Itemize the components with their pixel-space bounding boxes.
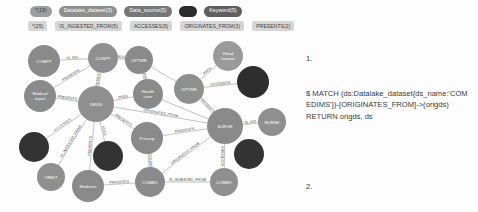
graph-edge[interactable] [151, 67, 176, 81]
graph-node[interactable]: Headtrauma [213, 41, 243, 71]
graph-canvas[interactable]: IS_ING...PRESENTSPRESENIS_INGESPRESACCES… [0, 34, 300, 212]
graph-node[interactable]: NURSE [258, 108, 286, 136]
graph-edge-label: ACCESSES [210, 81, 231, 87]
graph-node[interactable]: COMPT [28, 45, 60, 77]
graph-node[interactable]: SURGE [207, 108, 243, 144]
graph-node[interactable]: OPTWR [174, 74, 204, 104]
graph-edge-label: PRESENTS [57, 95, 78, 102]
graph-edge-label: IS_ING [244, 120, 257, 125]
graph-edge-label: PRESENTS [175, 127, 196, 134]
legend-relationship-pill[interactable]: IS_INGESTED_FROM(5) [55, 21, 122, 31]
legend-relationship-pill[interactable]: PRESENTS(2) [252, 21, 294, 31]
legend-relationship-pill[interactable]: ORIGINATES_FROM(3) [180, 21, 244, 31]
graph-node[interactable] [237, 66, 269, 98]
graph-node[interactable]: COMED [135, 167, 165, 197]
graph-edge-label: PRESENTS [114, 113, 133, 128]
graph-node-label: care [144, 94, 153, 99]
graph-node-label: report [34, 96, 46, 101]
graph-node-label: Medicine [79, 184, 97, 189]
legend-node-pill[interactable]: *(19) [30, 6, 52, 17]
legend-node-pill[interactable]: Keyword(5) [204, 6, 242, 17]
graph-explorer-screen: *(19)Datalake_dataset(3)Data_source(5)*(… [0, 0, 478, 212]
graph-edge-label: PRES [202, 66, 213, 76]
graph-edge-label: PRESENTS [61, 68, 80, 82]
graph-edge-label: IS_INGESTED_FROM [169, 178, 206, 182]
graph-node-label: COMED [216, 180, 232, 185]
graph-node[interactable]: Medicalreport [24, 80, 56, 112]
graph-edge-label: IS_ING... [66, 55, 81, 60]
graph-node[interactable] [93, 141, 123, 171]
graph-node-label: DRUG [90, 102, 103, 107]
graph-node-label: NURSE [265, 120, 280, 125]
graph-node[interactable] [19, 132, 49, 162]
query-text: $ MATCH (ds:Datalake_dataset{ds_name:'CO… [306, 88, 474, 123]
legend-node-types: *(19)Datalake_dataset(3)Data_source(5)*(… [0, 4, 300, 18]
graph-node-label: SURGE [217, 124, 232, 129]
query-index: 2. [306, 181, 474, 193]
graph-node-label: COMED [142, 180, 158, 185]
graph-node[interactable]: ORBIT [37, 163, 65, 191]
graph-node[interactable]: Medicine [72, 170, 104, 202]
graph-visualization[interactable]: IS_ING...PRESENTSPRESENIS_INGESPRESACCES… [0, 34, 300, 212]
query-block[interactable]: 1. $ MATCH (ds:Datalake_dataset{ds_name:… [306, 30, 474, 145]
graph-node-label: trauma [221, 56, 235, 61]
graph-node-label: CLINPT [95, 56, 111, 61]
graph-node[interactable]: COMED [210, 168, 238, 196]
graph-node-circle[interactable] [234, 139, 264, 169]
legend-relationship-pill[interactable]: *(25) [28, 21, 47, 31]
query-panel: 1. $ MATCH (ds:Datalake_dataset{ds_name:… [306, 30, 474, 208]
graph-node-circle[interactable] [93, 141, 123, 171]
legend-node-pill[interactable]: Data_source(5) [124, 6, 171, 17]
graph-node[interactable]: CLINPT [88, 43, 118, 73]
query-block[interactable]: 2. $ MATCH (ds:Datalake_dataset{ds_name:… [306, 158, 474, 212]
graph-node[interactable]: Prescrp [131, 122, 163, 154]
graph-node[interactable]: Healthcare [133, 79, 163, 109]
graph-edge-label: PRESENTS [199, 97, 216, 114]
graph-edge-label: ACCESSES [53, 117, 72, 132]
graph-edge-label: ACCE [101, 126, 107, 137]
graph-node-label: COMPT [36, 59, 52, 64]
graph-node-label: OPTWR [181, 87, 197, 92]
graph-edge-label: PRESENTS [109, 180, 130, 185]
legend-relationship-pill[interactable]: ACCESSES(5) [130, 21, 172, 31]
legend-relationship-types: *(25)IS_INGESTED_FROM(5)ACCESSES(5)ORIGI… [0, 19, 300, 33]
graph-node-circle[interactable] [19, 132, 49, 162]
graph-node-circle[interactable] [237, 66, 269, 98]
graph-node[interactable] [234, 139, 264, 169]
graph-edge-label: IS_INGESTED_FROM [59, 124, 82, 158]
query-index: 1. [306, 53, 474, 65]
graph-node-label: OPTWR [131, 58, 147, 63]
legend-node-pill[interactable]: *(2) [179, 6, 198, 17]
graph-edge-label: ORIGINATES_FROM [170, 141, 201, 165]
graph-node[interactable]: DRUG [78, 86, 114, 122]
legend-node-pill[interactable]: Datalake_dataset(3) [59, 6, 118, 17]
legend: *(19)Datalake_dataset(3)Data_source(5)*(… [0, 0, 300, 36]
graph-edge-label: ACCESSES [220, 145, 224, 166]
graph-node-label: ORBIT [44, 175, 57, 180]
graph-node[interactable]: OPTWR [125, 46, 153, 74]
graph-node-label: Prescrp [140, 136, 155, 141]
